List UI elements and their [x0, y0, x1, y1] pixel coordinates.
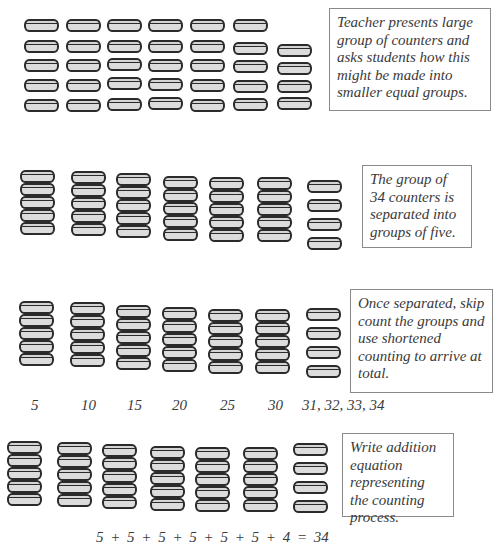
counter-icon [306, 365, 341, 378]
counter-icon [257, 203, 292, 216]
counter-icon [257, 190, 292, 203]
counter-icon [102, 457, 137, 470]
counter-icon [71, 223, 106, 236]
counter-icon [257, 229, 292, 242]
addition-equation: 5 + 5 + 5 + 5 + 5 + 5 + 4 = 34 [96, 529, 329, 546]
counter-icon [150, 459, 185, 472]
step-3-note-box: Once separated, skip count the groups an… [350, 289, 493, 393]
counter-icon [107, 77, 142, 90]
counter-icon [243, 499, 278, 512]
counter-icon [190, 79, 225, 92]
counter-icon [71, 197, 106, 210]
counter-icon [162, 320, 197, 333]
counter-icon [70, 341, 105, 354]
skip-count-label: 31, 32, 33, 34 [302, 397, 385, 414]
counter-icon [277, 97, 312, 110]
counter-icon [307, 199, 342, 212]
counter-icon [102, 470, 137, 483]
counter-icon [208, 348, 243, 361]
counter-icon [162, 333, 197, 346]
counter-icon [243, 473, 278, 486]
counter-icon [243, 447, 278, 460]
counter-icon [233, 80, 268, 93]
counter-icon [19, 327, 54, 340]
counter-icon [116, 173, 151, 186]
counter-icon [20, 222, 55, 235]
counter-icon [7, 441, 42, 454]
counter-icon [208, 335, 243, 348]
counter-icon [148, 78, 183, 91]
counter-icon [195, 447, 230, 460]
step-2-note-box: The group of 34 counters is separated in… [362, 165, 472, 248]
counter-icon [66, 99, 101, 112]
counter-icon [70, 302, 105, 315]
counter-icon [148, 59, 183, 72]
counter-icon [277, 80, 312, 93]
counter-icon [233, 60, 268, 73]
counter-icon [116, 186, 151, 199]
counter-icon [57, 442, 92, 455]
counter-icon [116, 225, 151, 238]
counter-icon [150, 446, 185, 459]
counter-icon [107, 40, 142, 53]
counter-icon [150, 498, 185, 511]
counter-icon [24, 79, 59, 92]
counter-icon [208, 361, 243, 374]
counter-icon [20, 196, 55, 209]
counter-icon [20, 183, 55, 196]
counter-icon [163, 215, 198, 228]
counter-icon [24, 40, 59, 53]
counter-icon [24, 99, 59, 112]
counter-icon [116, 357, 151, 370]
skip-count-label: 20 [172, 397, 187, 414]
counter-icon [70, 315, 105, 328]
counter-icon [195, 460, 230, 473]
counter-icon [208, 322, 243, 335]
counter-icon [209, 216, 244, 229]
counter-icon [71, 171, 106, 184]
counter-icon [70, 328, 105, 341]
counter-icon [150, 472, 185, 485]
counter-icon [107, 98, 142, 111]
counter-icon [209, 229, 244, 242]
counter-icon [107, 19, 142, 32]
counter-icon [255, 348, 290, 361]
counter-icon [195, 486, 230, 499]
counter-icon [116, 331, 151, 344]
counter-icon [116, 318, 151, 331]
counter-icon [19, 301, 54, 314]
counter-icon [102, 483, 137, 496]
counter-icon [66, 19, 101, 32]
counter-icon [255, 309, 290, 322]
counter-icon [233, 19, 268, 32]
diagram-canvas: Teacher presents large group of counters… [0, 0, 493, 559]
counter-icon [107, 58, 142, 71]
counter-icon [66, 79, 101, 92]
counter-icon [163, 176, 198, 189]
counter-icon [307, 237, 342, 250]
counter-icon [233, 98, 268, 111]
counter-icon [190, 99, 225, 112]
counter-icon [243, 460, 278, 473]
counter-icon [195, 499, 230, 512]
counter-icon [293, 481, 328, 494]
skip-count-label: 15 [127, 397, 142, 414]
counter-icon [24, 59, 59, 72]
counter-icon [277, 44, 312, 57]
counter-icon [257, 216, 292, 229]
counter-icon [306, 308, 341, 321]
counter-icon [57, 455, 92, 468]
counter-icon [7, 480, 42, 493]
counter-icon [293, 443, 328, 456]
counter-icon [208, 309, 243, 322]
counter-icon [233, 42, 268, 55]
counter-icon [306, 346, 341, 359]
counter-icon [20, 209, 55, 222]
counter-icon [209, 177, 244, 190]
counter-icon [255, 335, 290, 348]
step-4-note-box: Write addition equation representing the… [342, 433, 454, 517]
skip-count-label: 10 [81, 397, 96, 414]
counter-icon [102, 444, 137, 457]
counter-icon [102, 496, 137, 509]
counter-icon [293, 462, 328, 475]
